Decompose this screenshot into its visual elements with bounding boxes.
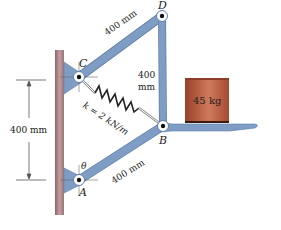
point-label-a: A <box>79 187 87 198</box>
point-label-b: B <box>159 135 167 146</box>
pin-b <box>158 121 169 132</box>
link-db-length-top: 400 <box>138 71 155 80</box>
link-db <box>162 16 163 126</box>
mass-label: 45 kg <box>193 96 221 106</box>
dimension-label: 400 mm <box>10 126 47 135</box>
pin-a <box>74 175 85 186</box>
platform <box>160 122 258 132</box>
mechanism-diagram: D C B A θ 400 mm 400 mm 400 mm k = 2 kN/… <box>0 0 281 230</box>
diagram-canvas <box>0 0 281 230</box>
angle-label-theta: θ <box>81 162 86 171</box>
point-label-d: D <box>158 0 167 11</box>
pin-c <box>74 72 85 83</box>
link-db-length-bottom: mm <box>138 83 155 92</box>
pin-d <box>157 11 168 22</box>
point-label-c: C <box>79 58 87 69</box>
wall <box>55 50 64 215</box>
